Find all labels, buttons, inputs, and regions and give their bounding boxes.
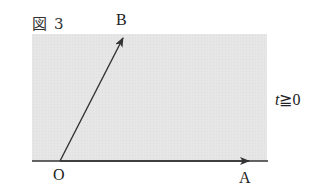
- point-label-b: B: [116, 11, 127, 29]
- condition-value: 0: [292, 91, 300, 108]
- point-label-a: A: [239, 169, 251, 187]
- vector-OB: [60, 38, 123, 161]
- condition-relation: ≧: [279, 91, 292, 108]
- point-label-origin: O: [53, 166, 65, 184]
- parameter-condition: t≧0: [275, 90, 300, 109]
- vector-diagram: [0, 0, 320, 194]
